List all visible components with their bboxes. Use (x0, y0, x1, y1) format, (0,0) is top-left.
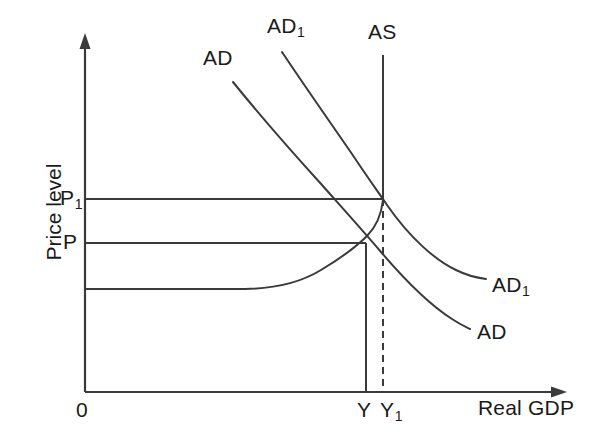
ad1-curve-label-top: AD1 (267, 15, 305, 36)
as-curve-label-top: AS (368, 21, 396, 42)
ad1-curve-label-bottom: AD1 (492, 274, 530, 295)
ad-curve (233, 82, 470, 329)
x-axis-label: Real GDP (478, 397, 574, 418)
as-curve (85, 200, 383, 289)
output-y-label: Y (357, 399, 371, 420)
origin-label: 0 (76, 399, 88, 420)
price-level-p1-label: P1 (60, 187, 82, 208)
chart-canvas (0, 0, 597, 440)
y-axis-label: Price level (42, 142, 66, 282)
ad-curve-label-bottom: AD (477, 321, 507, 342)
y-axis (80, 33, 91, 392)
ad-as-diagram: Price level Real GDP 0 P1 P Y Y1 AD AD1 … (0, 0, 597, 440)
price-level-p-label: P (63, 231, 77, 252)
ad-curve-label-top: AD (203, 47, 233, 68)
output-y1-label: Y1 (380, 399, 402, 420)
